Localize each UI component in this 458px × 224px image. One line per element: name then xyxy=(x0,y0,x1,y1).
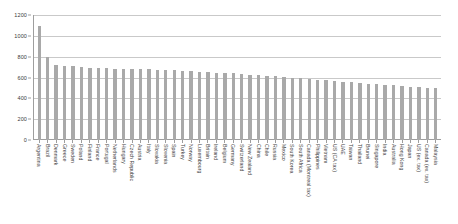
bar xyxy=(375,84,378,140)
bar xyxy=(88,68,91,141)
x-axis-tick-mark xyxy=(267,140,268,143)
bar-slot xyxy=(297,15,305,140)
bar-slot xyxy=(313,15,321,140)
bar xyxy=(181,71,184,140)
x-axis-tick xyxy=(86,140,94,143)
x-axis-label-slot: Vietnam xyxy=(322,144,330,222)
bar-slot xyxy=(373,15,381,140)
x-axis-tick xyxy=(389,140,397,143)
bar-slot xyxy=(204,15,212,140)
bar xyxy=(333,81,336,140)
bar xyxy=(316,80,319,140)
bar xyxy=(63,66,66,140)
x-axis-label-slot: Britain xyxy=(204,144,212,222)
x-axis-tick-label: Switzerland xyxy=(239,144,245,171)
x-axis-label-slot: Thailand xyxy=(356,144,364,222)
x-axis-tick-label: India xyxy=(382,144,388,156)
bar xyxy=(383,85,386,140)
bar-slot xyxy=(406,15,414,140)
x-axis-tick-mark xyxy=(317,140,318,143)
bar xyxy=(434,88,437,140)
x-axis-tick xyxy=(178,140,186,143)
x-axis-tick-mark xyxy=(157,140,158,143)
x-axis-label-slot: US (ex. tax) xyxy=(415,144,423,222)
bar-slot xyxy=(77,15,85,140)
x-axis-tick-label: Malaysia xyxy=(433,144,439,165)
x-axis-tick xyxy=(322,140,330,143)
x-axis-tick xyxy=(423,140,431,143)
bar-slot xyxy=(238,15,246,140)
x-axis-tick-label: New Zealand xyxy=(247,144,253,175)
x-axis-tick-label: Japan xyxy=(407,144,413,158)
x-axis-tick-label: Slovenia xyxy=(163,144,169,164)
bar xyxy=(417,87,420,140)
x-axis-tick xyxy=(204,140,212,143)
x-axis-tick-label: Austria xyxy=(137,144,143,161)
x-axis-tick xyxy=(187,140,195,143)
x-axis-tick-mark xyxy=(165,140,166,143)
bar-slot xyxy=(229,15,237,140)
bar-slot xyxy=(178,15,186,140)
x-axis-label-slot: Chile xyxy=(263,144,271,222)
x-axis-tick xyxy=(119,140,127,143)
x-axis-label-slot: France xyxy=(94,144,102,222)
bar xyxy=(232,73,235,140)
bar-slot xyxy=(145,15,153,140)
bar-slot xyxy=(423,15,431,140)
x-axis-tick-mark xyxy=(351,140,352,143)
x-axis-tick-label: Singapore xyxy=(374,144,380,168)
y-axis-tick-label: 1200 xyxy=(14,12,27,18)
bar xyxy=(367,84,370,140)
x-axis-tick-label: Chile xyxy=(264,144,270,156)
x-axis-label-slot: Argentina xyxy=(35,144,43,222)
x-axis-tick xyxy=(271,140,279,143)
x-axis-label-slot: Norway xyxy=(187,144,195,222)
x-axis-tick-mark xyxy=(368,140,369,143)
x-axis-tick-mark xyxy=(174,140,175,143)
y-axis: 020040060080010001200 xyxy=(0,15,31,140)
x-axis-tick-label: Italy xyxy=(146,144,152,154)
bar-slot xyxy=(195,15,203,140)
x-axis-label-slot: New Zealand xyxy=(246,144,254,222)
x-axis-tick-label: Portugal xyxy=(104,144,110,164)
bar xyxy=(265,76,268,140)
bar xyxy=(291,78,294,140)
x-axis-tick-label: Australia xyxy=(390,144,396,165)
bar-slot xyxy=(69,15,77,140)
y-axis-tick-label: 1000 xyxy=(14,33,27,39)
x-axis-labels: ArgentinaBrazilDenmarkGreeceSwedenPoland… xyxy=(34,144,441,222)
x-axis-tick-mark xyxy=(326,140,327,143)
bar-slot xyxy=(60,15,68,140)
bar xyxy=(189,71,192,140)
x-axis-label-slot: Singapore xyxy=(373,144,381,222)
x-axis-tick-label: Brunei xyxy=(365,144,371,159)
x-axis-label-slot: Brazil xyxy=(43,144,51,222)
x-axis-tick xyxy=(35,140,43,143)
bar-slot xyxy=(254,15,262,140)
x-axis-tick xyxy=(195,140,203,143)
x-axis-label-slot: Canada (ex. tax) xyxy=(423,144,431,222)
x-axis-tick-mark xyxy=(199,140,200,143)
bar xyxy=(409,87,412,140)
x-axis-tick-label: Russia xyxy=(272,144,278,160)
bar-slot xyxy=(347,15,355,140)
x-axis-tick xyxy=(212,140,220,143)
x-axis-label-slot: Brunei xyxy=(364,144,372,222)
bar xyxy=(139,69,142,140)
bar-slot xyxy=(322,15,330,140)
y-axis-tick-label: 400 xyxy=(18,95,27,101)
x-axis-label-slot: Austria xyxy=(136,144,144,222)
bar xyxy=(400,86,403,140)
x-axis-tick-mark xyxy=(233,140,234,143)
x-axis-tick-label: Denmark xyxy=(53,144,59,165)
x-axis-tick-mark xyxy=(418,140,419,143)
bar xyxy=(426,88,429,141)
y-axis-tick-mark xyxy=(28,98,31,99)
x-axis-label-slot: Hungary xyxy=(119,144,127,222)
bar-slot xyxy=(111,15,119,140)
x-axis-tick-label: US (CA tax) xyxy=(331,144,337,172)
bar xyxy=(215,73,218,141)
x-axis-label-slot: UAE xyxy=(339,144,347,222)
x-axis-tick-label: Hungary xyxy=(120,144,126,164)
x-axis-tick-mark xyxy=(64,140,65,143)
